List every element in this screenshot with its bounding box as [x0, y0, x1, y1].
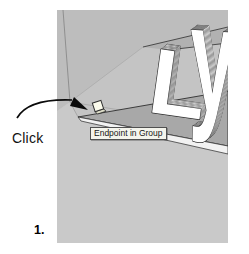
figure-page: L L L L L L L y y y y y y y [0, 0, 249, 254]
letter-y-3d: y y y y y y y [188, 0, 242, 146]
click-label: Click [12, 130, 43, 146]
step-number: 1. [34, 223, 44, 237]
scene: L L L L L L L y y y y y y y [57, 0, 243, 243]
letter-y-face: y [188, 0, 236, 145]
inference-tooltip: Endpoint in Group [90, 127, 167, 140]
